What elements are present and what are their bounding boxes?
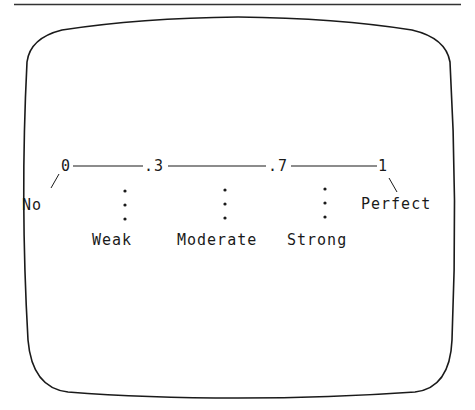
label-perfect: Perfect (361, 195, 431, 213)
label-no: No (22, 196, 42, 214)
scale-value-1: 1 (378, 157, 388, 175)
scale-value-0-3: .3 (144, 157, 164, 175)
label-moderate: Moderate (177, 231, 257, 249)
diagram-canvas: 0 .3 .7 1 No Perfect Weak Moderate Stron… (0, 0, 475, 410)
leader-perfect (389, 178, 397, 192)
scale-value-0: 0 (61, 157, 71, 175)
scale-value-0-7: .7 (268, 157, 288, 175)
label-strong: Strong (287, 231, 347, 249)
dots-strong (323, 187, 326, 218)
dots-moderate (223, 188, 226, 219)
leader-no (51, 174, 59, 188)
dots-weak (123, 189, 126, 220)
label-weak: Weak (92, 231, 132, 249)
